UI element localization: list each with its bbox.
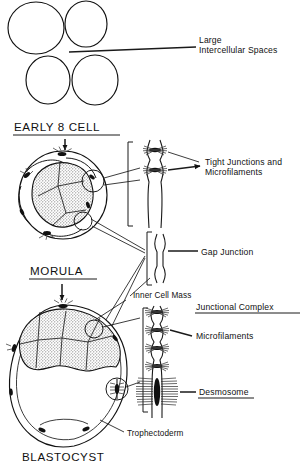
embryo-junction-diagram: Large Intercellular Spaces EARLY 8 CELL: [0, 0, 305, 462]
blastomere-bottom-left: [26, 56, 70, 104]
label-tight-junctions-line1: Tight Junctions and: [205, 157, 282, 167]
heading-morula: MORULA: [30, 264, 83, 277]
label-large-intercellular-spaces-line1: Large: [199, 35, 222, 45]
label-junctional-complex: Junctional Complex: [196, 302, 274, 312]
label-large-intercellular-spaces-line2: Intercellular Spaces: [199, 45, 277, 55]
label-inner-cell-mass: Inner Cell Mass: [133, 291, 191, 300]
blastomere-top-right: [65, 1, 107, 47]
label-desmosome: Desmosome: [199, 387, 249, 397]
blastomere-top-left: [8, 2, 64, 54]
heading-early-8-cell: EARLY 8 CELL: [14, 120, 100, 133]
heading-blastocyst: BLASTOCYST: [22, 450, 104, 462]
label-trophectoderm: Trophectoderm: [127, 429, 184, 438]
blastomere-bottom-right: [72, 55, 118, 105]
label-tight-junctions-line2: Microfilaments: [205, 167, 263, 177]
label-microfilaments: Microfilaments: [196, 331, 254, 341]
label-gap-junction: Gap Junction: [201, 247, 254, 257]
